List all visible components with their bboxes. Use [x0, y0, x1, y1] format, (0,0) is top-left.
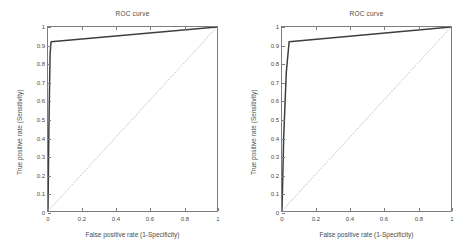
ytick-label: 0.2: [31, 173, 45, 179]
xtick-mark: [282, 208, 283, 211]
xtick-label: 0.2: [78, 216, 86, 222]
ytick-mark: [282, 194, 285, 195]
ytick-label: 0: [265, 210, 279, 216]
ytick-mark: [282, 157, 285, 158]
plot-title-right: ROC curve: [281, 10, 452, 17]
ytick-mark: [48, 157, 51, 158]
xtick-mark-top: [419, 27, 420, 30]
ytick-label: 0.9: [31, 43, 45, 49]
roc-plot-right: ROC curve: [238, 0, 475, 245]
xtick-mark-top: [384, 27, 385, 30]
xtick-mark-top: [350, 27, 351, 30]
xtick-mark: [82, 208, 83, 211]
xtick-mark: [384, 208, 385, 211]
ytick-label: 0.7: [265, 80, 279, 86]
xtick-mark: [350, 208, 351, 211]
ytick-mark: [282, 120, 285, 121]
ytick-label: 0.5: [265, 117, 279, 123]
y-axis-label-right: True positive rate (Sensitivity): [250, 90, 257, 175]
xtick-mark-top: [316, 27, 317, 30]
roc-figure: ROC curve: [0, 0, 475, 245]
ytick-mark: [48, 120, 51, 121]
ytick-label: 0.6: [31, 98, 45, 104]
ytick-mark: [282, 139, 285, 140]
xtick-label: 1: [450, 216, 453, 222]
xtick-label: 0.8: [181, 216, 189, 222]
xtick-mark: [150, 208, 151, 211]
ytick-label: 0.5: [31, 117, 45, 123]
xtick-mark: [316, 208, 317, 211]
plot-title-left: ROC curve: [47, 10, 218, 17]
xtick-label: 0.4: [112, 216, 120, 222]
ytick-mark: [48, 213, 51, 214]
xtick-label: 0: [46, 216, 49, 222]
ytick-mark: [48, 101, 51, 102]
ytick-mark: [282, 46, 285, 47]
roc-plot-left: ROC curve: [0, 0, 237, 245]
ytick-label: 0.1: [265, 191, 279, 197]
xtick-label: 1: [216, 216, 219, 222]
xtick-label: 0.4: [346, 216, 354, 222]
xtick-label: 0.8: [415, 216, 423, 222]
ytick-mark: [48, 83, 51, 84]
ytick-label: 1: [265, 24, 279, 30]
ytick-label: 0.8: [265, 61, 279, 67]
xtick-mark-top: [185, 27, 186, 30]
ytick-mark: [48, 176, 51, 177]
xtick-mark-top: [82, 27, 83, 30]
plot-canvas-left: [48, 27, 217, 211]
ytick-mark: [282, 176, 285, 177]
ytick-label: 0.4: [31, 136, 45, 142]
plot-canvas-right: [282, 27, 451, 211]
xtick-mark: [218, 208, 219, 211]
ytick-label: 0: [31, 210, 45, 216]
ytick-label: 0.4: [265, 136, 279, 142]
ytick-label: 0.7: [31, 80, 45, 86]
ytick-mark: [282, 213, 285, 214]
ytick-mark: [282, 83, 285, 84]
ytick-label: 0.9: [265, 43, 279, 49]
ytick-mark: [282, 101, 285, 102]
x-axis-label-left: False positive rate (1-Specificity): [47, 231, 218, 238]
y-axis-label-left: True positive rate (Sensitivity): [16, 90, 23, 175]
xtick-label: 0.2: [312, 216, 320, 222]
ytick-mark: [282, 64, 285, 65]
xtick-label: 0: [280, 216, 283, 222]
x-axis-label-right: False positive rate (1-Specificity): [281, 231, 452, 238]
ytick-label: 0.6: [265, 98, 279, 104]
ytick-mark: [48, 194, 51, 195]
xtick-label: 0.6: [146, 216, 154, 222]
ytick-label: 0.3: [265, 154, 279, 160]
xtick-mark: [48, 208, 49, 211]
xtick-label: 0.6: [380, 216, 388, 222]
chance-diagonal-left: [48, 27, 217, 211]
ytick-mark: [48, 46, 51, 47]
xtick-mark-top: [116, 27, 117, 30]
ytick-label: 0.2: [265, 173, 279, 179]
xtick-mark: [419, 208, 420, 211]
ytick-mark: [48, 64, 51, 65]
ytick-label: 0.1: [31, 191, 45, 197]
chance-diagonal-right: [282, 27, 451, 211]
axes-area-right: 0 0.2 0.4 0.6 0.8 1 0 0.1 0.2 0.3 0.4 0.…: [281, 26, 452, 212]
xtick-mark: [116, 208, 117, 211]
xtick-mark: [452, 208, 453, 211]
xtick-mark-top: [150, 27, 151, 30]
xtick-mark: [185, 208, 186, 211]
ytick-label: 1: [31, 24, 45, 30]
ytick-mark: [48, 139, 51, 140]
axes-area-left: 0 0.2 0.4 0.6 0.8 1 0 0.1 0.2 0.3 0.4 0.…: [47, 26, 218, 212]
ytick-label: 0.8: [31, 61, 45, 67]
ytick-label: 0.3: [31, 154, 45, 160]
ytick-mark: [48, 27, 51, 28]
ytick-mark: [282, 27, 285, 28]
